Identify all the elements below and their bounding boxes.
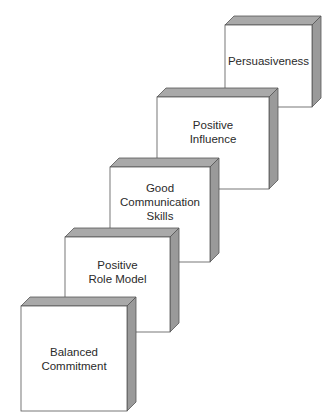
box-side-face (210, 158, 219, 262)
box-side-face (127, 297, 136, 411)
label-line: Communication (120, 195, 200, 209)
label-line: Positive (190, 118, 237, 132)
label-line: Role Model (88, 272, 146, 286)
box-label-balanced-commitment: BalancedCommitment (21, 306, 127, 411)
label-line: Skills (120, 209, 200, 223)
label-line: Commitment (41, 359, 106, 373)
staircase-diagram: PersuasivenessPositiveInfluenceGoodCommu… (0, 0, 323, 418)
box-label-persuasiveness: Persuasiveness (225, 25, 312, 97)
box-side-face (269, 88, 278, 189)
box-label-good-communication-skills: GoodCommunicationSkills (110, 167, 210, 237)
label-line: Good (120, 181, 200, 195)
label-line: Influence (190, 132, 237, 146)
box-side-face (170, 228, 179, 332)
box-label-positive-role-model: PositiveRole Model (65, 237, 170, 306)
box-side-face (312, 16, 321, 107)
box-label-positive-influence: PositiveInfluence (157, 97, 269, 167)
label-line: Balanced (41, 345, 106, 359)
label-line: Positive (88, 258, 146, 272)
label-line: Persuasiveness (228, 54, 309, 68)
box-top-face (225, 16, 321, 25)
